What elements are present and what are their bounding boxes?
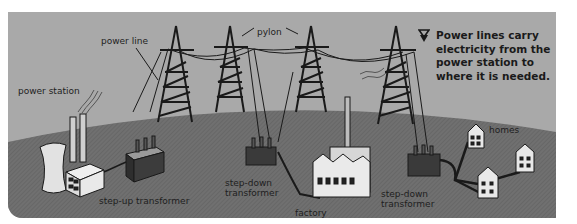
- label-power-station: power station: [18, 86, 80, 96]
- down-triangle-marker-icon: [418, 29, 430, 43]
- pylon-2: [214, 26, 248, 112]
- label-pylon: pylon: [257, 27, 282, 37]
- caption-text: Power lines carry electricity from the p…: [436, 29, 556, 83]
- label-line: transformer: [381, 199, 434, 209]
- label-line: step-down: [381, 189, 434, 199]
- label-power-line: power line: [101, 36, 148, 46]
- diagram-panel: power line pylon power station step-up t…: [8, 12, 556, 218]
- label-line: step-down: [225, 178, 278, 188]
- label-factory: factory: [295, 208, 327, 218]
- label-step-down-transformer-2: step-down transformer: [381, 189, 434, 209]
- label-step-up-transformer: step-up transformer: [99, 196, 189, 206]
- label-step-down-transformer-1: step-down transformer: [225, 178, 278, 198]
- label-line: transformer: [225, 188, 278, 198]
- pylon-3: [295, 26, 329, 112]
- pylon-1: [158, 26, 194, 122]
- label-homes: homes: [489, 125, 519, 135]
